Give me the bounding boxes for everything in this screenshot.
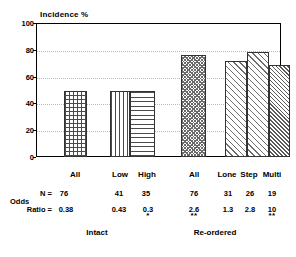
y-tick-label-40: 40 [0, 99, 34, 108]
significance-reordered-all: ** [190, 211, 197, 220]
y-axis-ticks: 100 80 60 40 20 0 [0, 23, 34, 157]
odds-value-reordered-lone: 1.3 [223, 205, 233, 214]
gridline-80 [37, 51, 280, 52]
category-label-reordered-all: All [189, 170, 199, 179]
category-label-intact-high: High [138, 170, 156, 179]
incidence-bar-chart: Incidence % 100 80 60 40 20 0 All Low Hi… [0, 0, 296, 257]
group-label-reordered: Re-ordered [194, 228, 237, 237]
category-label-reordered-step: Step [240, 170, 257, 179]
odds-value-reordered-step: 2.8 [245, 205, 255, 214]
n-value-intact-all: 76 [60, 189, 68, 198]
n-value-reordered-step: 26 [246, 189, 254, 198]
plot-area [36, 23, 281, 157]
significance-intact-high: * [146, 211, 150, 220]
y-tick-label-100: 100 [0, 19, 34, 28]
y-tick-label-80: 80 [0, 45, 34, 54]
group-label-intact: Intact [86, 228, 107, 237]
y-tick-label-60: 60 [0, 72, 34, 81]
significance-reordered-multi: ** [268, 211, 275, 220]
y-axis-title: Incidence % [40, 10, 88, 19]
odds-row-label-bottom: Ratio = [10, 205, 52, 214]
gridline-20 [37, 131, 280, 132]
n-value-reordered-all: 76 [190, 189, 198, 198]
gridline-60 [37, 78, 280, 79]
n-value-intact-low: 41 [115, 189, 123, 198]
n-value-intact-high: 35 [142, 189, 150, 198]
odds-value-intact-low: 0.43 [112, 205, 127, 214]
category-label-intact-low: Low [112, 170, 128, 179]
y-tick-mark-0 [33, 157, 36, 158]
y-tick-label-0: 0 [0, 153, 34, 162]
odds-value-intact-all: 0.38 [59, 205, 74, 214]
category-label-intact-all: All [70, 170, 80, 179]
gridline-40 [37, 104, 280, 105]
n-value-reordered-multi: 19 [268, 189, 276, 198]
category-label-reordered-lone: Lone [217, 170, 236, 179]
y-tick-label-20: 20 [0, 126, 34, 135]
category-label-reordered-multi: Multi [263, 170, 282, 179]
n-value-reordered-lone: 31 [224, 189, 232, 198]
